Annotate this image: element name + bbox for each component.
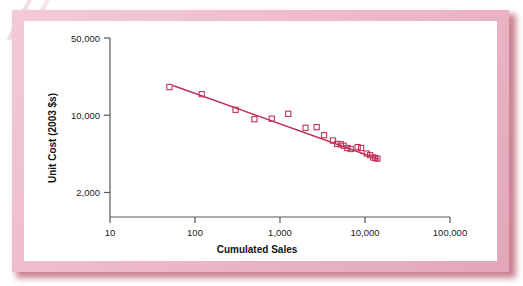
axes-group [110,38,450,217]
y-tick-label: 50,000 [71,33,100,44]
data-point-marker [167,84,172,89]
x-tick-label: 100,000 [433,227,467,238]
y-axis-title: Unit Cost (2003 $s) [47,93,58,183]
chart-area: 2,00010,00050,000 101001,00010,000100,00… [12,10,509,272]
data-point-marker [303,125,308,130]
y-tick-label: 10,000 [71,110,100,121]
experience-curve-chart: 2,00010,00050,000 101001,00010,000100,00… [12,10,509,272]
x-tick-label: 10,000 [350,227,379,238]
x-tick-label: 10 [105,227,116,238]
x-axis-ticks: 101001,00010,000100,000 [105,217,467,238]
data-point-marker [252,117,257,122]
data-point-markers [167,84,380,161]
chart-screenshot: 2,00010,00050,000 101001,00010,000100,00… [0,0,523,286]
data-point-marker [314,125,319,130]
data-point-marker [321,133,326,138]
x-axis-title: Cumulated Sales [217,244,298,255]
y-tick-label: 2,000 [76,187,100,198]
y-axis-ticks: 2,00010,00050,000 [71,33,110,198]
x-tick-label: 1,000 [268,227,292,238]
data-point-marker [286,111,291,116]
x-tick-label: 100 [187,227,203,238]
